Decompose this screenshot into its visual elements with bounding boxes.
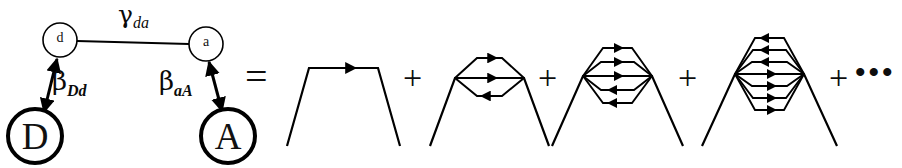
gamma-symbol: γ — [118, 0, 133, 29]
node-label-A: A — [208, 118, 248, 155]
edge-label-beta-Dd: βDd — [52, 68, 87, 95]
diagram-figure: γda βDd βaA d a D A = + + + + ••• — [0, 0, 902, 168]
term-4-group — [702, 38, 837, 146]
edge-a-A — [209, 62, 222, 111]
term-2-line-top — [455, 58, 524, 78]
term-1-group — [287, 68, 400, 146]
term-3-line-2 — [583, 62, 652, 76]
edge-label-gamma-da: γda — [118, 2, 149, 27]
beta-symbol-aA: β — [159, 66, 174, 96]
term-2-line-bottom — [455, 78, 524, 96]
term-2-group — [430, 58, 549, 146]
term-4-line-3 — [735, 62, 804, 74]
term-4-line-1 — [735, 38, 804, 74]
gamma-subscript: da — [133, 14, 149, 31]
node-label-a: a — [196, 35, 216, 49]
beta-aA-subscript: aA — [174, 82, 193, 99]
beta-Dd-subscript: Dd — [67, 82, 87, 99]
node-label-D: D — [15, 118, 55, 155]
node-label-d: d — [50, 31, 70, 45]
edge-label-beta-aA: βaA — [159, 68, 193, 95]
plus-sign-4: + — [829, 61, 848, 95]
beta-symbol-Dd: β — [52, 66, 67, 96]
term-4-line-5 — [735, 74, 804, 86]
term-4-line-7 — [735, 74, 804, 110]
ellipsis: ••• — [855, 57, 896, 87]
term-3-line-4 — [583, 76, 652, 90]
plus-sign-1: + — [403, 61, 422, 95]
plus-sign-3: + — [678, 61, 697, 95]
edge-d-a — [77, 41, 189, 44]
plus-sign-2: + — [538, 61, 557, 95]
equals-sign: = — [245, 57, 268, 97]
term-3-legs — [552, 76, 683, 146]
term-1-outline — [287, 68, 400, 146]
term-2-legs — [430, 78, 549, 146]
term-3-group — [552, 48, 683, 146]
